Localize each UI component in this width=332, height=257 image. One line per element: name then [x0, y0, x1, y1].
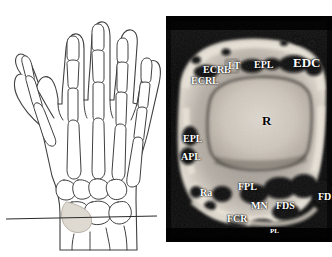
hand-skeleton-drawing: [0, 0, 164, 257]
mri-label-ecrl: ECRL: [191, 76, 219, 86]
mri-label-edc: EDC: [293, 56, 320, 69]
mri-label-fcr: FCR: [227, 214, 248, 224]
mri-label-radius: R: [262, 114, 271, 127]
mri-label-apl: APL: [181, 152, 201, 162]
mri-label-ecrb: ECRB: [203, 65, 231, 75]
mri-label-pl: PL: [270, 228, 279, 235]
anatomy-figure: ECRB LT EPL EDC ECRL R EPL APL Ra FPL MN…: [0, 0, 332, 257]
figure-caption: [166, 244, 332, 257]
mri-label-median-nerve: MN: [251, 201, 268, 211]
hand-diagram-panel: [0, 0, 164, 257]
wrist-mri-panel: ECRB LT EPL EDC ECRL R EPL APL Ra FPL MN…: [166, 16, 332, 242]
axial-mr-image: [166, 16, 332, 242]
mri-label-lt: LT: [228, 61, 240, 71]
mri-label-epl-radial: EPL: [183, 134, 202, 144]
mri-label-fds: FDS: [276, 201, 295, 211]
mri-label-radial-artery: Ra: [200, 188, 212, 198]
mri-label-fpl: FPL: [238, 182, 257, 192]
mri-label-epl-dorsal: EPL: [254, 60, 273, 70]
mri-label-fd: FD: [318, 192, 331, 202]
